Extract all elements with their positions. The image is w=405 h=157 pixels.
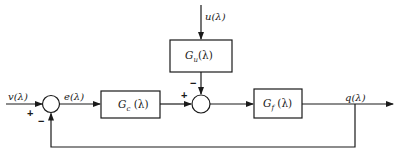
summing-junction-right [192,95,210,113]
right-plus-sign: + [181,90,187,101]
left-plus-sign: + [27,108,33,119]
output-signal-label: q(λ) [345,93,366,103]
summing-junction-left [43,96,60,113]
plant-block-label: Gf (λ) [263,98,292,112]
right-minus-sign: − [190,78,196,89]
disturbance-block-label: Gu(λ) [185,50,213,64]
diagram-lines [0,0,405,157]
controller-block-label: Gc (λ) [118,99,149,113]
left-minus-sign: − [38,116,44,127]
error-signal-label: e(λ) [64,92,84,102]
disturbance-signal-label: u(λ) [205,12,226,22]
block-diagram: v(λ) e(λ) u(λ) q(λ) + − + − Gc (λ) Gu(λ)… [0,0,405,157]
input-signal-label: v(λ) [8,92,28,102]
